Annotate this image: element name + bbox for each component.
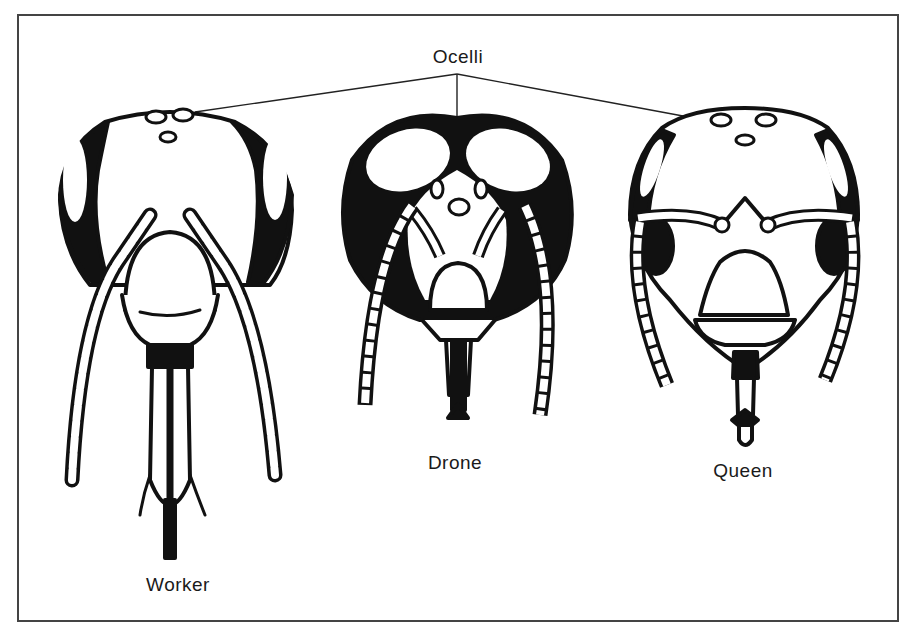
- queen-label: Queen: [713, 460, 773, 482]
- worker-head: [60, 109, 292, 558]
- queen-head: [630, 108, 858, 445]
- ocelli-label: Ocelli: [433, 46, 484, 68]
- drone-head: [343, 116, 572, 418]
- drone-label: Drone: [428, 452, 482, 474]
- worker-label: Worker: [146, 574, 210, 596]
- bee-heads-illustration: [0, 0, 906, 638]
